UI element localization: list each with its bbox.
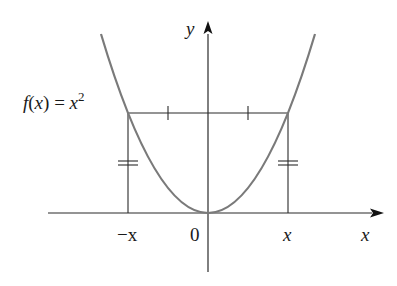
x-axis-label: x — [360, 224, 370, 245]
even-function-diagram: y x −x 0 x f(x) = x2 — [0, 0, 397, 286]
y-axis-arrow-icon — [204, 21, 213, 34]
x-axis-arrow-icon — [370, 209, 384, 218]
neg-x-tick-label: −x — [117, 224, 138, 245]
origin-label: 0 — [190, 224, 200, 245]
y-axis-label: y — [184, 18, 195, 39]
pos-x-tick-label: x — [282, 224, 292, 245]
function-label: f(x) = x2 — [23, 89, 85, 114]
